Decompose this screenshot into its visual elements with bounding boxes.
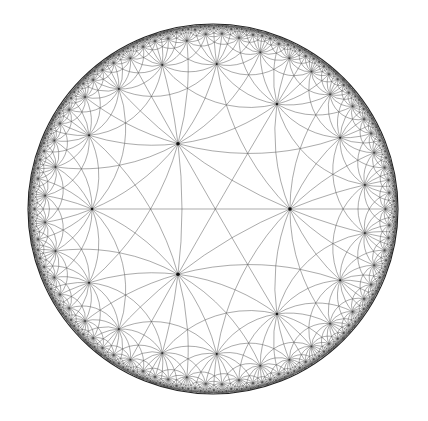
order-8-vertex [55, 251, 56, 252]
order-8-vertex [88, 282, 90, 284]
order-8-vertex [364, 184, 365, 185]
order-8-vertex [216, 63, 218, 65]
order-8-vertex [118, 328, 119, 329]
order-8-vertex [339, 137, 341, 139]
order-8-vertex [45, 222, 46, 223]
order-8-vertex [260, 52, 261, 53]
order-8-vertex [162, 64, 163, 65]
order-8-vertex [374, 265, 375, 266]
order-8-vertex [276, 103, 278, 105]
order-8-vertex [130, 58, 131, 59]
order-8-vertex [289, 58, 290, 59]
order-8-vertex [311, 71, 312, 72]
order-8-vertex [85, 321, 86, 322]
order-8-vertex [54, 140, 55, 141]
order-8-vertex [91, 208, 93, 210]
order-8-vertex [88, 134, 90, 136]
order-8-vertex [187, 41, 188, 42]
order-8-vertex [339, 279, 341, 281]
order-8-vertex [330, 94, 331, 95]
order-8-vertex [289, 359, 290, 360]
order-8-vertex [374, 152, 375, 153]
order-8-vertex [352, 311, 353, 312]
order-8-vertex [239, 380, 240, 381]
order-8-vertex [176, 273, 180, 277]
tiling-edges [29, 25, 398, 394]
order-8-vertex [45, 195, 46, 196]
order-8-vertex [364, 232, 365, 233]
order-8-vertex [260, 365, 261, 366]
order-8-vertex [118, 88, 119, 89]
order-8-vertex [187, 377, 188, 378]
order-8-vertex [130, 359, 131, 360]
order-8-vertex [216, 353, 218, 355]
tiling-edge-lines [29, 25, 398, 394]
order-8-vertex [239, 38, 240, 39]
order-8-vertex [55, 166, 56, 167]
order-8-vertex [276, 313, 278, 315]
order-8-vertex [288, 207, 291, 210]
order-8-vertex [385, 209, 386, 210]
order-8-vertex [176, 142, 180, 146]
order-8-vertex [54, 277, 55, 278]
order-8-vertex [330, 323, 331, 324]
poincare-disk-tiling [0, 0, 428, 421]
order-8-vertex [162, 352, 163, 353]
order-8-vertex [311, 346, 312, 347]
order-8-vertex [352, 106, 353, 107]
order-8-vertex [85, 97, 86, 98]
